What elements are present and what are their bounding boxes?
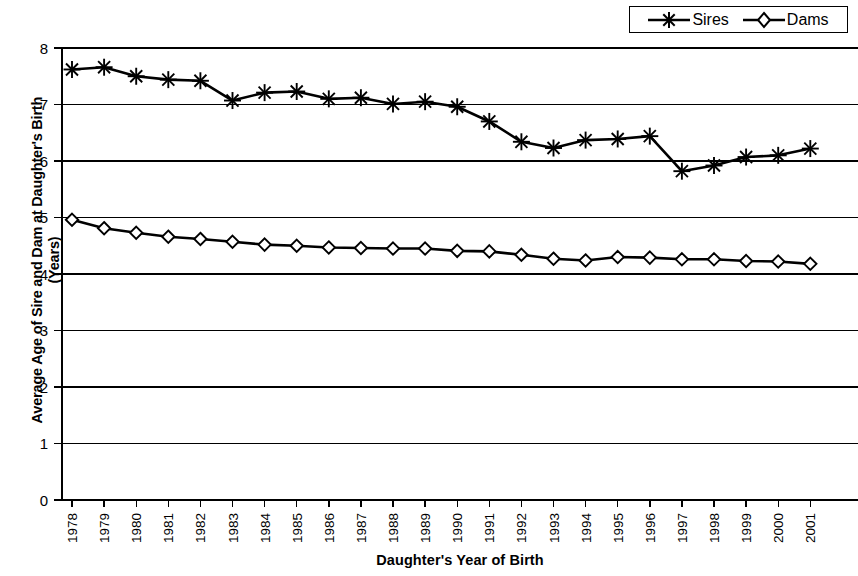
- data-point-sires: [128, 68, 145, 85]
- x-axis-tick-label: 1983: [226, 513, 241, 543]
- data-point-dams: [579, 254, 591, 266]
- x-axis-tick-label: 1978: [65, 513, 80, 543]
- x-axis-tick-label: 1981: [161, 513, 176, 543]
- x-axis-tick-label: 1996: [643, 513, 658, 543]
- data-point-sires: [192, 72, 209, 89]
- x-axis-tick-label: 1979: [97, 513, 112, 543]
- x-axis-tick-label: 1991: [482, 513, 497, 543]
- x-axis-tick-label: 1985: [290, 513, 305, 543]
- legend-label-dams: Dams: [787, 12, 829, 28]
- y-axis-tick-label: 0: [40, 492, 48, 509]
- data-point-sires: [545, 140, 562, 157]
- x-axis-tick-label: 1999: [739, 513, 754, 543]
- data-point-dams: [130, 227, 142, 239]
- x-axis-tick-label: 1992: [514, 513, 529, 543]
- data-point-dams: [708, 253, 720, 265]
- series-dams: [66, 214, 817, 270]
- x-axis-tick-label: 1982: [193, 513, 208, 543]
- data-point-dams: [451, 245, 463, 257]
- data-point-dams: [258, 238, 270, 250]
- series-line-dams: [72, 220, 810, 264]
- data-point-dams: [515, 249, 527, 261]
- data-point-dams: [676, 253, 688, 265]
- data-point-sires: [288, 83, 305, 100]
- x-axis-tick-label: 2000: [771, 513, 786, 543]
- legend-label-sires: Sires: [692, 12, 728, 28]
- chart-container: Sires Dams Average Age of Sire and Dam a…: [0, 0, 858, 576]
- series-line-sires: [72, 67, 810, 171]
- x-axis-tick-label: 1998: [707, 513, 722, 543]
- x-axis-tick-labels: 1978197919801981198219831984198519861987…: [65, 513, 818, 544]
- data-point-sires: [577, 132, 594, 149]
- y-axis-tick-labels: 012345678: [40, 40, 48, 509]
- x-axis-tick-label: 1988: [386, 513, 401, 543]
- data-point-dams: [644, 251, 656, 263]
- data-point-sires: [385, 95, 402, 112]
- data-point-sires: [609, 130, 626, 147]
- data-point-dams: [323, 241, 335, 253]
- data-point-dams: [483, 245, 495, 257]
- dams-marker-icon: [743, 11, 785, 29]
- data-point-dams: [66, 214, 78, 226]
- data-point-dams: [98, 222, 110, 234]
- data-point-dams: [226, 236, 238, 248]
- data-point-sires: [449, 98, 466, 115]
- y-axis-tick-label: 6: [40, 153, 48, 170]
- plot-area: 012345678 197819791980198119821983198419…: [0, 0, 858, 576]
- data-point-sires: [738, 149, 755, 166]
- y-axis-tick-label: 1: [40, 435, 48, 452]
- data-point-sires: [802, 140, 819, 157]
- sires-marker-icon: [648, 11, 690, 29]
- x-axis-tick-label: 1987: [354, 513, 369, 543]
- data-point-sires: [256, 84, 273, 101]
- y-axis-tickmarks: [54, 48, 62, 500]
- chart-legend: Sires Dams: [629, 6, 848, 33]
- x-axis-tick-label: 1995: [611, 513, 626, 543]
- data-point-sires: [673, 163, 690, 180]
- x-axis-tick-label: 1989: [418, 513, 433, 543]
- x-axis-tick-label: 1984: [258, 513, 273, 544]
- x-axis-tick-label: 2001: [803, 513, 818, 543]
- y-axis-tick-label: 7: [40, 96, 48, 113]
- data-point-dams: [387, 242, 399, 254]
- data-point-sires: [64, 61, 81, 78]
- x-axis-tick-label: 1980: [129, 513, 144, 543]
- data-point-sires: [320, 90, 337, 107]
- data-point-dams: [547, 253, 559, 265]
- data-point-dams: [355, 242, 367, 254]
- data-point-dams: [162, 231, 174, 243]
- y-axis-tick-label: 4: [40, 266, 48, 283]
- data-point-dams: [740, 255, 752, 267]
- data-point-dams: [772, 255, 784, 267]
- data-point-sires: [641, 128, 658, 145]
- y-axis-tick-label: 5: [40, 209, 48, 226]
- data-point-dams: [804, 258, 816, 270]
- y-axis-tick-label: 3: [40, 322, 48, 339]
- x-axis-tick-label: 1994: [579, 513, 594, 544]
- y-axis-tick-label: 2: [40, 379, 48, 396]
- data-point-sires: [96, 59, 113, 76]
- legend-item-dams: Dams: [743, 11, 829, 29]
- x-axis-tick-label: 1990: [450, 513, 465, 543]
- data-point-dams: [612, 251, 624, 263]
- x-axis-tick-label: 1993: [547, 513, 562, 543]
- data-point-sires: [352, 89, 369, 106]
- y-axis-tick-label: 8: [40, 40, 48, 57]
- data-point-sires: [417, 93, 434, 110]
- data-series: [64, 59, 819, 270]
- data-point-dams: [291, 240, 303, 252]
- data-point-sires: [481, 113, 498, 130]
- legend-item-sires: Sires: [648, 11, 728, 29]
- data-point-sires: [160, 71, 177, 88]
- data-point-dams: [194, 233, 206, 245]
- data-point-sires: [706, 157, 723, 174]
- x-axis-tick-label: 1997: [675, 513, 690, 543]
- x-axis-tick-label: 1986: [322, 513, 337, 543]
- data-point-sires: [224, 92, 241, 109]
- data-point-sires: [513, 133, 530, 150]
- data-point-sires: [770, 147, 787, 164]
- data-point-dams: [419, 242, 431, 254]
